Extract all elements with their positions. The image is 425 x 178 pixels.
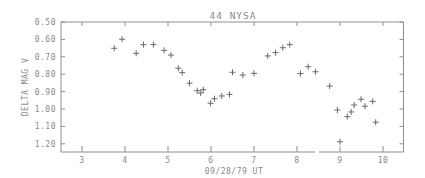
- x-tick-label: 3: [79, 156, 84, 165]
- data-point-plus-marker: [344, 114, 350, 120]
- data-point-plus-marker: [161, 47, 167, 53]
- y-axis-ticks: 0.500.600.700.800.901.001.101.20: [35, 18, 404, 149]
- chart-title: 44 NYSA: [209, 10, 256, 21]
- x-tick-label: 7: [251, 156, 256, 165]
- data-point-plus-marker: [187, 80, 193, 86]
- x-tick-label: 6: [208, 156, 213, 165]
- x-tick-label: 4: [122, 156, 127, 165]
- data-point-plus-marker: [175, 65, 181, 71]
- data-point-plus-marker: [370, 98, 376, 104]
- data-point-plus-marker: [211, 96, 217, 102]
- y-tick-label: 1.10: [35, 122, 56, 131]
- data-point-plus-marker: [280, 45, 286, 51]
- data-point-plus-marker: [358, 96, 364, 102]
- data-point-plus-marker: [179, 70, 185, 76]
- data-point-plus-marker: [327, 83, 333, 89]
- x-tick-label: 10: [378, 156, 389, 165]
- data-point-plus-marker: [273, 50, 279, 56]
- data-point-plus-marker: [150, 42, 156, 48]
- y-tick-label: 1.20: [35, 140, 56, 149]
- data-point-plus-marker: [265, 53, 271, 59]
- x-axis-label: 09/28/79 UT: [205, 167, 263, 176]
- light-curve-chart: 44 NYSA 345678910 0.500.600.700.800.901.…: [0, 0, 425, 178]
- x-tick-label: 5: [165, 156, 170, 165]
- data-point-plus-marker: [297, 71, 303, 77]
- plot-frame: [61, 22, 404, 152]
- data-point-plus-marker: [140, 42, 146, 48]
- data-point-plus-marker: [287, 42, 293, 48]
- x-tick-label: 8: [294, 156, 299, 165]
- data-point-plus-marker: [312, 69, 318, 75]
- y-tick-label: 1.00: [35, 105, 56, 114]
- data-point-plus-marker: [305, 64, 311, 70]
- x-axis-ticks: 345678910: [79, 22, 388, 165]
- data-point-plus-marker: [119, 36, 125, 42]
- y-tick-label: 0.80: [35, 70, 56, 79]
- data-point-plus-marker: [133, 50, 139, 56]
- data-point-plus-marker: [362, 103, 368, 109]
- y-tick-label: 0.90: [35, 88, 56, 97]
- y-tick-label: 0.50: [35, 18, 56, 27]
- data-point-plus-marker: [219, 93, 225, 99]
- x-tick-label: 9: [337, 156, 342, 165]
- data-point-plus-marker: [230, 69, 236, 75]
- data-points: [111, 36, 378, 144]
- data-point-plus-marker: [240, 72, 246, 78]
- data-point-plus-marker: [348, 109, 354, 115]
- data-point-plus-marker: [337, 139, 343, 145]
- data-point-plus-marker: [208, 100, 214, 106]
- data-point-plus-marker: [351, 102, 357, 108]
- data-point-plus-marker: [373, 119, 379, 125]
- y-tick-label: 0.60: [35, 35, 56, 44]
- data-point-plus-marker: [168, 52, 174, 58]
- y-tick-label: 0.70: [35, 53, 56, 62]
- data-point-plus-marker: [251, 70, 257, 76]
- y-axis-label: DELTA MAG V: [21, 58, 30, 116]
- data-point-plus-marker: [111, 45, 117, 51]
- data-point-plus-marker: [226, 91, 232, 97]
- data-point-plus-marker: [334, 107, 340, 113]
